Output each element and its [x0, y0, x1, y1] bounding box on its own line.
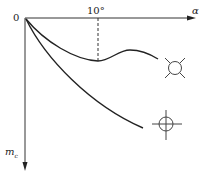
y-axis-label: mc	[5, 147, 18, 159]
lower-curve	[26, 19, 143, 128]
upper-curve	[26, 19, 158, 61]
circle-ticks-symbol-icon	[165, 58, 185, 78]
diagram-canvas	[0, 0, 202, 174]
x-axis-arrow-icon	[187, 16, 196, 21]
crosshair-symbol-icon	[152, 110, 182, 140]
y-axis-arrow-icon	[23, 162, 28, 171]
y-axis-label-sub: c	[14, 152, 17, 159]
origin-label: 0	[13, 13, 19, 23]
x-axis-label: α	[192, 6, 199, 16]
tick-10deg-label: 10°	[87, 6, 105, 16]
